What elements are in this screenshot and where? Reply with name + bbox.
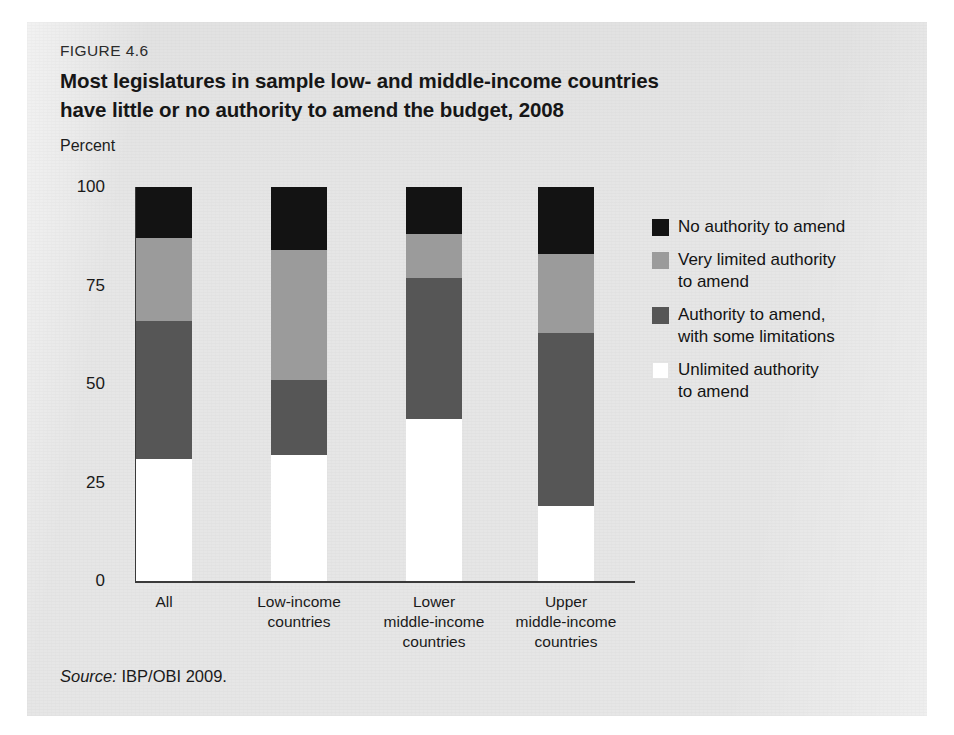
bar-segment [271,455,327,581]
x-category-label-line: Upper [491,592,641,612]
x-category-label-line: Lower [359,592,509,612]
x-category-label-2: Low-incomecountries [224,592,374,632]
source-text: IBP/OBI 2009. [117,667,227,685]
x-category-label-4: Uppermiddle-incomecountries [491,592,641,652]
bar-segment [406,187,462,234]
source-note: Source: IBP/OBI 2009. [60,667,227,686]
legend-label: Unlimited authorityto amend [678,359,819,403]
y-tick-label: 100 [59,177,105,197]
legend-label: No authority to amend [678,216,845,238]
legend-item-2[interactable]: Very limited authorityto amend [652,249,922,293]
page-background: FIGURE 4.6 Most legislatures in sample l… [0,0,954,735]
x-category-label-line: All [89,592,239,612]
legend-label-line: to amend [678,381,819,403]
legend-label-line: Very limited authority [678,249,836,271]
bar-stack-3 [406,187,462,581]
legend-item-3[interactable]: Authority to amend,with some limitations [652,304,922,348]
bar-segment [136,459,192,581]
bar-segment [136,321,192,459]
x-category-label-line: middle-income [359,612,509,632]
legend-item-1[interactable]: No authority to amend [652,216,922,238]
x-category-label-3: Lowermiddle-incomecountries [359,592,509,652]
legend-swatch-icon [652,252,669,269]
x-category-label-line: middle-income [491,612,641,632]
bar-segment [538,254,594,333]
x-axis-line [135,581,635,583]
y-tick-label: 50 [59,374,105,394]
bar-segment [538,506,594,581]
bar-stack-4 [538,187,594,581]
chart-legend: No authority to amendVery limited author… [652,216,922,414]
legend-label: Authority to amend,with some limitations [678,304,835,348]
bar-segment [406,419,462,581]
legend-label-line: No authority to amend [678,216,845,238]
bar-segment [538,333,594,506]
y-tick-label: 0 [59,571,105,591]
legend-swatch-icon [652,219,669,236]
bar-segment [406,234,462,277]
legend-label-line: to amend [678,271,836,293]
bar-segment [538,187,594,254]
y-tick-label: 75 [59,276,105,296]
bar-segment [136,238,192,321]
legend-label-line: Unlimited authority [678,359,819,381]
bar-segment [271,250,327,380]
x-category-label-1: All [89,592,239,612]
x-category-label-line: countries [224,612,374,632]
y-tick-label: 25 [59,473,105,493]
source-label: Source: [60,667,117,685]
bar-stack-1 [136,187,192,581]
legend-swatch-icon [652,362,669,379]
x-category-label-line: countries [491,632,641,652]
legend-label: Very limited authorityto amend [678,249,836,293]
bar-segment [406,278,462,420]
legend-label-line: with some limitations [678,326,835,348]
bar-stack-2 [271,187,327,581]
legend-label-line: Authority to amend, [678,304,835,326]
bar-segment [136,187,192,238]
x-category-label-line: countries [359,632,509,652]
legend-swatch-icon [652,307,669,324]
legend-item-4[interactable]: Unlimited authorityto amend [652,359,922,403]
bar-segment [271,187,327,250]
bar-segment [271,380,327,455]
figure-panel: FIGURE 4.6 Most legislatures in sample l… [27,22,927,716]
x-category-label-line: Low-income [224,592,374,612]
